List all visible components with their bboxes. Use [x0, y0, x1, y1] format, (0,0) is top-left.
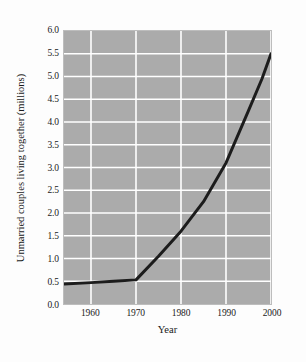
x-axis-title: Year [63, 324, 272, 336]
x-tick-label: 2000 [252, 308, 292, 319]
x-tick-label: 1960 [70, 308, 110, 319]
x-tick-label: 1990 [207, 308, 247, 319]
x-tick-label: 1970 [116, 308, 156, 319]
x-tick-label: 1980 [161, 308, 201, 319]
chart-figure: Unmarried couples living together (milli… [0, 0, 306, 362]
x-axis-tick-labels: 19601970198019902000 [0, 0, 306, 362]
